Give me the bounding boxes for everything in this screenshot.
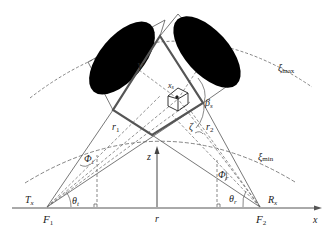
label-z: z xyxy=(146,151,151,162)
label-r: r xyxy=(155,213,159,224)
label-phi-t: Φt xyxy=(84,153,95,166)
label-f1: F1 xyxy=(42,213,54,227)
bistatic-geometry-diagram: V ξmax ξmin βs xs ζ r1 r2 Φt Φr θt θr Tx… xyxy=(0,0,333,233)
label-xi-min: ξmin xyxy=(258,151,274,163)
label-r2: r2 xyxy=(206,121,214,134)
phi-t-arc xyxy=(80,164,90,166)
label-xs: xs xyxy=(167,81,175,90)
label-x: x xyxy=(312,214,318,225)
label-zeta: ζ xyxy=(189,121,194,133)
theta-r-arc xyxy=(243,191,246,207)
transmitter-aperture-ellipse xyxy=(77,10,167,106)
xi-min-arc xyxy=(25,141,295,183)
label-theta-t: θt xyxy=(72,195,80,208)
zeta-small-arc xyxy=(195,132,203,134)
label-rx: Rx xyxy=(267,194,278,207)
label-xi-max: ξmax xyxy=(278,62,295,75)
label-r1: r1 xyxy=(112,121,120,134)
label-tx: Tx xyxy=(25,194,35,207)
receiver-aperture-ellipse xyxy=(161,5,253,100)
label-f2: F2 xyxy=(255,213,267,227)
label-theta-r: θr xyxy=(229,193,237,206)
z-axis-arrow xyxy=(155,146,160,207)
scatterer-cube xyxy=(168,88,188,111)
